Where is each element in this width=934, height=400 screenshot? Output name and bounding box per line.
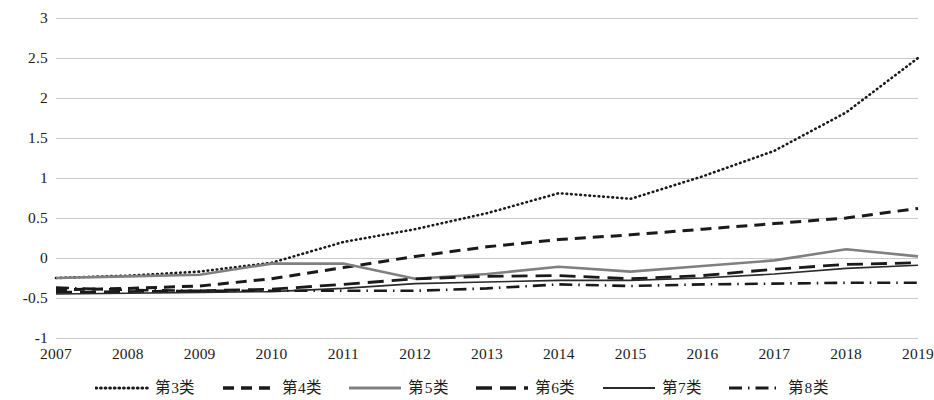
y-tick-label: 3 xyxy=(0,10,48,26)
x-tick-label: 2019 xyxy=(902,346,934,362)
dashed-line-swatch xyxy=(222,381,276,395)
x-tick-label: 2008 xyxy=(112,346,144,362)
legend-label: 第5类 xyxy=(408,380,449,396)
legend-label: 第8类 xyxy=(788,380,829,396)
x-tick-label: 2010 xyxy=(256,346,288,362)
plot-area xyxy=(56,18,918,338)
x-tick-label: 2012 xyxy=(399,346,431,362)
series-lines xyxy=(56,18,918,338)
legend-item-5[interactable]: 第7类 xyxy=(602,380,703,396)
legend-item-6[interactable]: 第8类 xyxy=(728,380,829,396)
x-tick-label: 2018 xyxy=(830,346,862,362)
thin-solid-line-swatch xyxy=(602,381,656,395)
legend-label: 第6类 xyxy=(535,380,576,396)
x-tick-label: 2016 xyxy=(687,346,719,362)
x-tick-label: 2013 xyxy=(471,346,503,362)
x-tick-label: 2007 xyxy=(40,346,72,362)
legend-label: 第7类 xyxy=(662,380,703,396)
dash-dot-line-swatch xyxy=(728,381,782,395)
y-tick-label: 1.5 xyxy=(0,130,48,146)
y-axis: 32.521.510.50-0.5-1 xyxy=(0,0,48,356)
x-tick-label: 2017 xyxy=(758,346,790,362)
series-line-2 xyxy=(56,208,918,290)
y-tick-label: 0.5 xyxy=(0,210,48,226)
legend-item-2[interactable]: 第4类 xyxy=(222,380,323,396)
series-line-3 xyxy=(56,249,918,279)
y-tick-label: 0 xyxy=(0,250,48,266)
legend-item-1[interactable]: 第3类 xyxy=(95,380,196,396)
y-tick-label: 1 xyxy=(0,170,48,186)
dotted-line-swatch xyxy=(95,381,149,395)
legend-label: 第3类 xyxy=(155,380,196,396)
solid-gray-line-swatch xyxy=(348,381,402,395)
y-tick-label: 2 xyxy=(0,90,48,106)
long-dash-line-swatch xyxy=(475,381,529,395)
x-tick-label: 2009 xyxy=(184,346,216,362)
x-tick-label: 2015 xyxy=(615,346,647,362)
x-axis: 2007200820092010201120122013201420152016… xyxy=(56,346,918,370)
x-tick-label: 2011 xyxy=(328,346,359,362)
legend-item-3[interactable]: 第5类 xyxy=(348,380,449,396)
series-line-1 xyxy=(56,58,918,278)
chart-legend: 第3类第4类第5类第6类第7类第8类 xyxy=(0,376,924,400)
y-tick-label: 2.5 xyxy=(0,50,48,66)
x-tick-label: 2014 xyxy=(543,346,575,362)
y-tick-label: -0.5 xyxy=(0,290,48,306)
legend-item-4[interactable]: 第6类 xyxy=(475,380,576,396)
y-tick-label: -1 xyxy=(0,330,48,346)
legend-label: 第4类 xyxy=(282,380,323,396)
